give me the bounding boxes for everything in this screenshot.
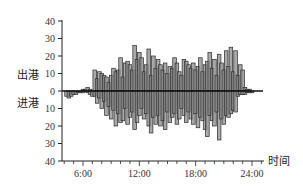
y-tick-label: 30 — [45, 138, 55, 149]
y-tick-label: 10 — [45, 103, 55, 114]
y-label-outbound: 出港 — [17, 68, 39, 81]
y-tick-label: 30 — [45, 33, 55, 44]
y-tick-label: 20 — [45, 51, 55, 62]
y-tick-label: 20 — [45, 121, 55, 132]
x-tick-label: 18:00 — [184, 168, 207, 179]
x-axis-ticks: 6:0012:0018:0024:00 — [64, 161, 263, 179]
y-axis-ticks: 01020304010203040 — [45, 16, 62, 167]
x-tick-label: 12:00 — [128, 168, 151, 179]
y-tick-label: 10 — [45, 68, 55, 79]
y-tick-label: 40 — [45, 156, 55, 167]
x-axis-label: 时间 — [268, 155, 290, 167]
y-tick-label: 40 — [45, 16, 55, 27]
x-tick-label: 6:00 — [74, 168, 92, 179]
x-tick-label: 24:00 — [241, 168, 264, 179]
y-label-inbound: 进港 — [17, 97, 39, 109]
port-traffic-chart: 01020304010203040 6:0012:0018:0024:00 时间… — [0, 0, 303, 192]
bars-group — [65, 46, 254, 141]
y-tick-label: 0 — [50, 86, 55, 97]
